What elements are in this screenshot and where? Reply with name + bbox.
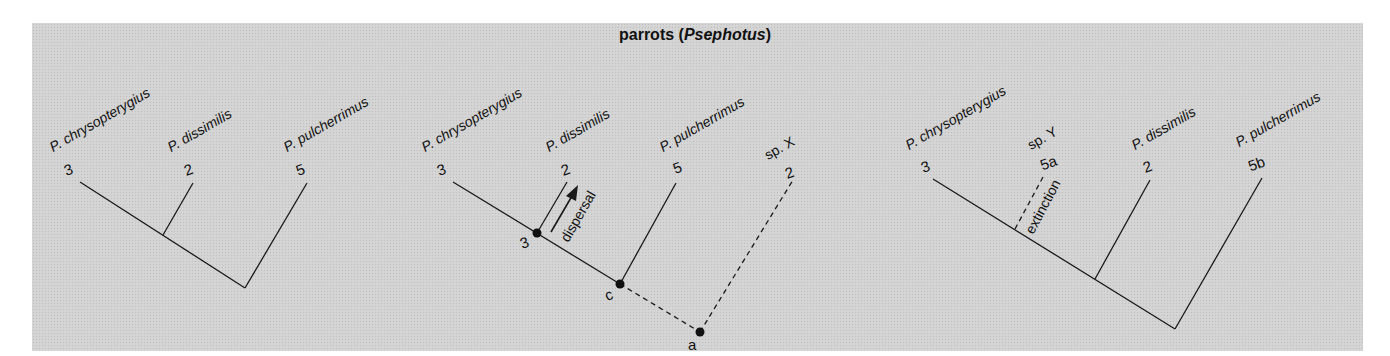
branch-pulcherrimus (620, 183, 676, 284)
node-dot-a (696, 328, 705, 337)
branch-pulcherrimus (245, 183, 307, 288)
branch-dissimilis (163, 183, 193, 235)
dispersal-arrow-head-icon (566, 185, 578, 201)
branch-chrysopterygius (80, 182, 245, 288)
node-dot-3 (533, 229, 542, 238)
branch-c-to-a-dashed (620, 284, 700, 332)
tree-1-branches (80, 182, 307, 288)
node-dot-c (616, 280, 625, 289)
branch-spX-dashed (700, 180, 793, 332)
tree-3-branches (933, 177, 1262, 329)
tree-2-branches (453, 180, 793, 332)
branch-pulcherrimus (1175, 178, 1262, 329)
phylogeny-lines (0, 0, 1390, 356)
node-label-a: a (688, 337, 696, 352)
branch-dissimilis (1095, 180, 1150, 279)
